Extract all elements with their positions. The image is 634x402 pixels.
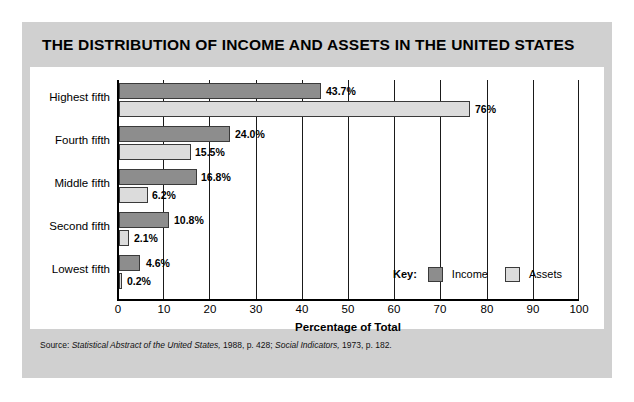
x-tick-label: 40 [296, 303, 309, 315]
legend: Key: Income Assets [393, 264, 572, 284]
bar-value-assets: 0.2% [127, 273, 151, 289]
x-tick-label: 100 [569, 303, 588, 315]
plot-panel: Highest fifth Fourth fifth Middle fifth … [30, 67, 604, 329]
source-note: Source: Statistical Abstract of the Unit… [40, 340, 392, 350]
bar-value-income: 10.8% [174, 212, 204, 228]
bar-income[interactable] [119, 169, 197, 185]
legend-label-assets: Assets [529, 268, 562, 280]
legend-swatch-assets-icon [505, 267, 520, 282]
bar-value-income: 43.7% [326, 83, 356, 99]
bar-income[interactable] [119, 126, 230, 142]
source-title-1: Statistical Abstract of the United State… [72, 340, 221, 350]
bar-income[interactable] [119, 255, 140, 271]
source-prefix: Source: [40, 340, 72, 350]
x-tick-label: 10 [158, 303, 171, 315]
bar-value-income: 24.0% [235, 126, 265, 142]
x-tick-label: 90 [527, 303, 540, 315]
bar-value-assets: 6.2% [152, 187, 176, 203]
bar-value-assets: 76% [475, 101, 496, 117]
x-axis-line [117, 299, 579, 301]
x-tick-label: 0 [115, 303, 121, 315]
source-mid-2: 1973, p. 182. [340, 340, 392, 350]
category-label: Fourth fifth [55, 133, 110, 147]
x-tick-label: 50 [342, 303, 355, 315]
plot-area: 43.7% 76% 24.0% 15.5% 16.8% 6.2% [117, 80, 579, 301]
category-label: Highest fifth [49, 90, 110, 104]
x-tick-label: 20 [204, 303, 217, 315]
x-tick-label: 30 [250, 303, 263, 315]
x-tick-label: 60 [388, 303, 401, 315]
category-axis: Highest fifth Fourth fifth Middle fifth … [30, 80, 110, 301]
bar-value-income: 16.8% [201, 169, 231, 185]
bar-assets[interactable] [119, 230, 129, 246]
bar-income[interactable] [119, 83, 321, 99]
bar-assets[interactable] [119, 101, 470, 117]
source-mid-1: 1988, p. 428; [221, 340, 275, 350]
bar-assets[interactable] [119, 273, 122, 289]
chart-title: THE DISTRIBUTION OF INCOME AND ASSETS IN… [42, 36, 594, 54]
source-title-2: Social Indicators, [275, 340, 340, 350]
x-axis-title: Percentage of Total [117, 321, 579, 333]
category-label: Second fifth [49, 219, 110, 233]
bar-value-assets: 2.1% [134, 230, 158, 246]
x-tick-label: 80 [481, 303, 494, 315]
bar-value-assets: 15.5% [195, 144, 225, 160]
category-label: Lowest fifth [52, 262, 110, 276]
bar-income[interactable] [119, 212, 169, 228]
bar-value-income: 4.6% [146, 255, 170, 271]
bar-assets[interactable] [119, 187, 148, 203]
x-axis-ticks: 0 10 20 30 40 50 60 70 80 90 100 [117, 303, 579, 319]
x-tick-label: 70 [434, 303, 447, 315]
gridline-100 [578, 80, 579, 301]
legend-swatch-income-icon [428, 267, 443, 282]
category-label: Middle fifth [54, 176, 110, 190]
chart-figure: THE DISTRIBUTION OF INCOME AND ASSETS IN… [22, 22, 612, 378]
bar-assets[interactable] [119, 144, 191, 160]
legend-label-income: Income [452, 268, 488, 280]
legend-key-label: Key: [393, 268, 417, 280]
